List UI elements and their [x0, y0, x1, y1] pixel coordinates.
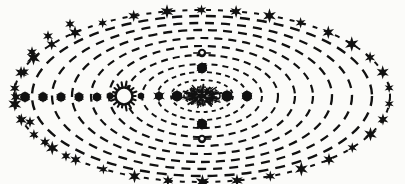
planet-body — [56, 92, 65, 101]
planet-body — [197, 119, 207, 129]
core-speck — [206, 92, 209, 95]
core-speck — [199, 102, 202, 105]
core-speck — [202, 91, 205, 94]
planet-highlight — [200, 137, 204, 141]
core-speck — [207, 98, 209, 100]
core-speck — [194, 91, 197, 94]
core-speck — [193, 88, 196, 91]
core-speck — [211, 93, 214, 96]
core-speck — [195, 97, 198, 100]
core-speck — [208, 95, 210, 97]
core-speck — [202, 100, 204, 102]
core-speck — [212, 96, 215, 99]
core-speck — [197, 89, 199, 91]
planet-body — [242, 91, 252, 101]
orbital-diagram-figure: Geocentric Orbital System Diagram — [0, 0, 405, 184]
core-speck — [210, 97, 213, 100]
planet-body — [155, 92, 163, 100]
core-speck — [197, 101, 200, 104]
planet-body — [93, 93, 102, 102]
planet-body — [197, 63, 207, 73]
core-nucleus — [198, 93, 206, 98]
core-speck — [188, 93, 191, 96]
planet-body — [172, 91, 183, 102]
core-speck — [208, 100, 211, 103]
planet-body — [74, 92, 83, 101]
sun-disc — [116, 88, 133, 105]
planet-body — [138, 93, 144, 99]
orbit-canvas — [0, 0, 405, 184]
core-speck — [192, 92, 194, 94]
core-speck — [193, 94, 196, 97]
planet-body — [20, 92, 30, 102]
planet-highlight — [200, 51, 204, 55]
planet-body — [221, 90, 232, 101]
planet-body — [38, 92, 48, 102]
core-speck — [190, 98, 193, 101]
core-speck — [205, 100, 208, 103]
